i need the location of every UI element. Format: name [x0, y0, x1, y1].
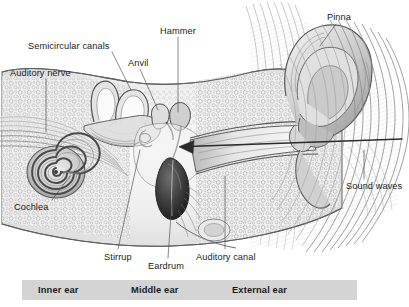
label-stirrup: Stirrup [104, 252, 132, 262]
ear-section-bar: Inner ear Middle ear External ear [22, 280, 357, 300]
label-cochlea: Cochlea [14, 202, 48, 212]
label-semicircular-canals: Semicircular canals [28, 41, 110, 51]
label-auditory-canal: Auditory canal [196, 252, 256, 262]
section-label-middle-ear: Middle ear [131, 285, 178, 295]
section-label-external-ear: External ear [232, 285, 287, 295]
label-pinna: Pinna [327, 12, 351, 22]
label-sound-waves: Sound waves [346, 181, 402, 191]
label-anvil: Anvil [128, 58, 148, 68]
label-auditory-nerve: Auditory nerve [10, 68, 71, 78]
section-label-inner-ear: Inner ear [38, 285, 79, 295]
label-hammer: Hammer [160, 26, 196, 36]
label-eardrum: Eardrum [148, 261, 184, 271]
ear-anatomy-figure: Semicircular canals Auditory nerve Anvil… [0, 0, 409, 307]
